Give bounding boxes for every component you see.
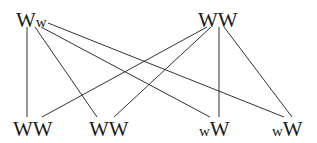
bottom-node-3: wW	[199, 119, 230, 140]
node-letter: W	[109, 117, 129, 141]
edge-t2-b4	[224, 27, 292, 117]
node-letter: W	[33, 117, 53, 141]
node-letter: W	[13, 117, 33, 141]
node-letter: w	[272, 123, 283, 139]
node-letter: w	[199, 123, 210, 139]
node-letter: W	[198, 8, 218, 32]
node-letter: w	[36, 14, 47, 30]
node-letter: W	[218, 8, 238, 32]
edge-t2-b2	[114, 27, 211, 117]
top-node-ww: Ww	[16, 10, 47, 31]
diagram-canvas: Ww WW WW WW wW wW	[0, 0, 317, 143]
bottom-node-1: WW	[13, 119, 53, 140]
node-letter: W	[89, 117, 109, 141]
bottom-node-2: WW	[89, 119, 129, 140]
bottom-node-4: wW	[272, 119, 303, 140]
edge-t1-b4	[48, 23, 284, 117]
node-letter: W	[16, 8, 36, 32]
top-node-WW: WW	[198, 10, 238, 31]
node-letter: W	[283, 117, 303, 141]
node-letter: W	[210, 117, 230, 141]
